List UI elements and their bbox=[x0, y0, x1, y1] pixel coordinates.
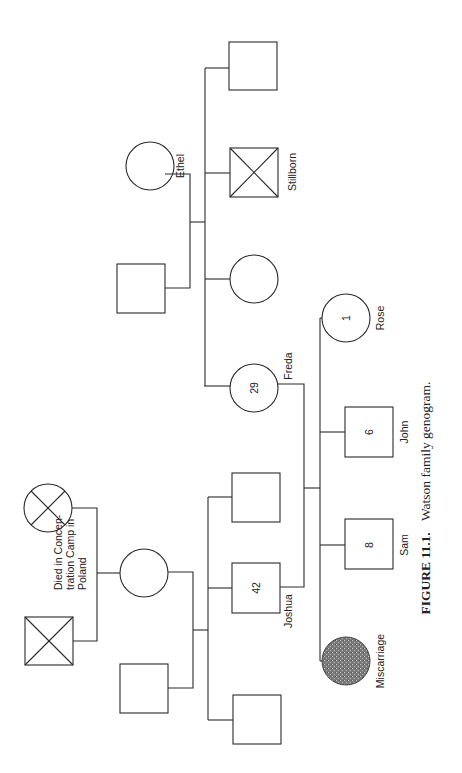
camp-note-line3: Poland bbox=[76, 557, 88, 590]
camp-note: Died in Concen- tration Camp in Poland bbox=[52, 514, 88, 590]
ethel-couple: Ethel bbox=[117, 142, 205, 313]
stillborn-square[interactable] bbox=[230, 148, 278, 197]
camp-note-line1: Died in Concen- bbox=[52, 514, 64, 590]
joshua-sibling-square-2[interactable] bbox=[233, 695, 281, 744]
camp-note-line2: tration Camp in bbox=[64, 519, 76, 590]
ethel-husband-square[interactable] bbox=[117, 264, 165, 313]
miscarriage-label: Miscarriage bbox=[374, 634, 386, 688]
joshua-freda-marriage-line bbox=[278, 384, 304, 587]
rose-name-label: Rose bbox=[374, 306, 386, 331]
freda-name-label: Freda bbox=[282, 352, 294, 380]
john-square[interactable]: 6 bbox=[345, 407, 393, 457]
joshua-parents-couple bbox=[120, 497, 233, 720]
ethel-name-label: Ethel bbox=[174, 154, 186, 178]
freda-sister-circle[interactable] bbox=[230, 255, 278, 303]
freda-brother-square[interactable] bbox=[229, 42, 277, 90]
joshua-age: 42 bbox=[250, 582, 262, 594]
stillborn-label: Stillborn bbox=[286, 153, 298, 191]
joshua-square[interactable]: 42 bbox=[232, 563, 280, 613]
sam-square[interactable]: 8 bbox=[345, 519, 393, 569]
joshua-parents-marriage-line bbox=[168, 572, 193, 688]
joshua-mother-circle[interactable] bbox=[120, 549, 168, 597]
grandparents-couple: Died in Concen- tration Camp in Poland bbox=[24, 484, 120, 665]
joshua-sibling-square-1[interactable] bbox=[232, 473, 280, 522]
caption-text: Watson family genogram. bbox=[418, 382, 433, 522]
sam-name-label: Sam bbox=[398, 534, 410, 556]
rose-circle[interactable]: 1 bbox=[322, 294, 370, 342]
ethel-marriage-line bbox=[165, 174, 190, 288]
john-name-label: John bbox=[398, 420, 410, 443]
rose-age: 1 bbox=[340, 315, 352, 321]
genogram: Died in Concen- tration Camp in Poland 4… bbox=[0, 0, 462, 773]
john-age: 6 bbox=[363, 429, 375, 435]
joshua-father-square[interactable] bbox=[120, 664, 168, 713]
sam-age: 8 bbox=[363, 542, 375, 548]
joshua-name-label: Joshua bbox=[282, 594, 294, 628]
caption-label: FIGURE 11.1. bbox=[418, 532, 433, 614]
figure-caption: FIGURE 11.1. Watson family genogram. bbox=[418, 382, 433, 615]
freda-circle[interactable]: 29 bbox=[230, 364, 278, 412]
grandfather-deceased-square[interactable] bbox=[25, 617, 73, 665]
freda-age: 29 bbox=[248, 382, 260, 394]
ethel-circle[interactable] bbox=[126, 142, 174, 190]
miscarriage-filled-circle[interactable] bbox=[322, 637, 370, 685]
